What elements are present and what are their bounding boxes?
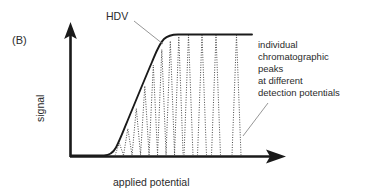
hdv-curve-label: HDV <box>106 10 128 22</box>
peaks-annotation-line: individual <box>258 39 298 50</box>
x-axis-label: applied potential <box>113 176 189 188</box>
figure-background <box>0 0 366 196</box>
hdv-chromatogram-figure: (B) HDV applied potential signal individ… <box>0 0 366 196</box>
peaks-annotation-line: detection potentials <box>258 87 340 98</box>
peaks-annotation-line: peaks <box>258 63 284 74</box>
y-axis-label: signal <box>34 95 46 122</box>
peaks-annotation-line: at different <box>258 75 303 86</box>
peaks-annotation-line: chromatographic <box>258 51 329 62</box>
figure-panel-b: (B) HDV applied potential signal individ… <box>0 0 366 196</box>
panel-label: (B) <box>12 34 27 46</box>
